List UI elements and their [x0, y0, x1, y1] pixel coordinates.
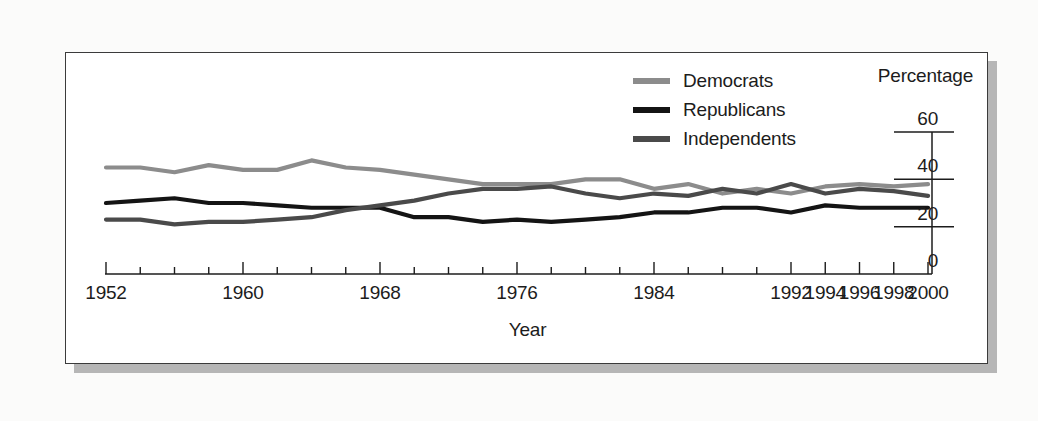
legend-item-democrats: Democrats: [633, 66, 863, 95]
legend-label-independents: Independents: [683, 128, 796, 150]
x-tick-label-1976: 1976: [482, 282, 552, 304]
legend-swatch-republicans: [633, 107, 670, 113]
x-tick-label-2000: 2000: [893, 282, 963, 304]
y-tick-label-40: 40: [894, 155, 938, 177]
series-line-republicans: [106, 198, 928, 222]
y-tick-label-60: 60: [894, 108, 938, 130]
chart-legend: Democrats Republicans Independents: [633, 66, 863, 153]
y-axis-title: Percentage: [878, 65, 973, 87]
legend-label-republicans: Republicans: [683, 99, 785, 121]
legend-swatch-independents: [633, 136, 670, 142]
x-tick-label-1952: 1952: [71, 282, 141, 304]
legend-item-republicans: Republicans: [633, 95, 863, 124]
series-layer: [106, 160, 928, 224]
legend-item-independents: Independents: [633, 124, 863, 153]
legend-label-democrats: Democrats: [683, 70, 773, 92]
x-tick-label-1984: 1984: [619, 282, 689, 304]
x-axis-title: Year: [66, 319, 989, 341]
y-tick-label-20: 20: [894, 203, 938, 225]
figure-root: Democrats Republicans Independents Perce…: [0, 0, 1038, 421]
figure-frame: Democrats Republicans Independents Perce…: [65, 52, 988, 364]
x-tick-label-1960: 1960: [208, 282, 278, 304]
y-tick-label-0: 0: [894, 250, 938, 272]
legend-swatch-democrats: [633, 78, 670, 84]
x-tick-label-1968: 1968: [345, 282, 415, 304]
